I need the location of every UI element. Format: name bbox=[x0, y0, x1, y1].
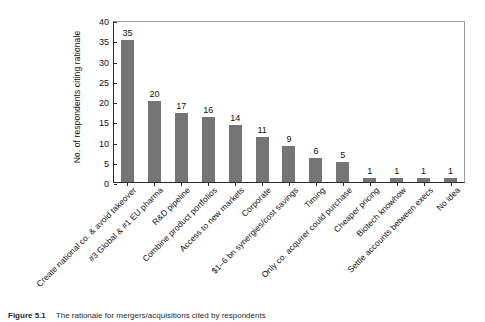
bar-value-label: 17 bbox=[176, 101, 186, 112]
bar-slot: 5 bbox=[329, 22, 356, 182]
caption-number: Figure 5.1 bbox=[8, 311, 46, 320]
y-tick-label: 0 bbox=[104, 179, 114, 189]
y-tick-label: 40 bbox=[99, 17, 114, 27]
x-tick-mark bbox=[424, 182, 425, 186]
bar-slot: 16 bbox=[195, 22, 222, 182]
bar-value-label: 1 bbox=[448, 166, 453, 177]
bar-slot: 11 bbox=[249, 22, 276, 182]
bar-slot: 9 bbox=[276, 22, 303, 182]
x-tick-mark bbox=[370, 182, 371, 186]
bar[interactable] bbox=[148, 101, 161, 182]
bar-value-label: 9 bbox=[286, 134, 291, 145]
bar-value-label: 11 bbox=[257, 125, 266, 136]
bar[interactable] bbox=[336, 162, 349, 182]
bar-slot: 14 bbox=[222, 22, 249, 182]
bar[interactable] bbox=[175, 113, 188, 182]
bar-value-label: 1 bbox=[394, 166, 399, 177]
bar-value-label: 20 bbox=[149, 89, 159, 100]
bar-slot: 1 bbox=[356, 22, 383, 182]
y-tick-label: 5 bbox=[104, 159, 114, 169]
y-axis-title: No. of respondents citing rationale bbox=[70, 16, 84, 178]
bar-value-label: 16 bbox=[203, 105, 213, 116]
x-tick-mark bbox=[154, 182, 155, 186]
bar-value-label: 1 bbox=[367, 166, 372, 177]
bar-slot: 20 bbox=[141, 22, 168, 182]
y-tick-label: 25 bbox=[99, 78, 114, 88]
y-tick-label: 10 bbox=[99, 139, 114, 149]
bar-value-label: 1 bbox=[421, 166, 426, 177]
bar-value-label: 35 bbox=[122, 28, 132, 39]
figure-caption: Figure 5.1The rationale for mergers/acqu… bbox=[8, 311, 266, 320]
bar-value-label: 6 bbox=[313, 146, 318, 157]
figure-container: No. of respondents citing rationale 0510… bbox=[0, 0, 485, 322]
bar[interactable] bbox=[202, 117, 215, 182]
bar-slot: 1 bbox=[437, 22, 464, 182]
x-tick-mark bbox=[343, 182, 344, 186]
bar-slot: 6 bbox=[302, 22, 329, 182]
bar-slot: 1 bbox=[410, 22, 437, 182]
x-tick-mark bbox=[235, 182, 236, 186]
y-tick-label: 30 bbox=[99, 58, 114, 68]
y-tick-label: 15 bbox=[99, 118, 114, 128]
x-tick-mark bbox=[316, 182, 317, 186]
y-tick-label: 35 bbox=[99, 37, 114, 47]
x-tick-mark bbox=[127, 182, 128, 186]
bar[interactable] bbox=[256, 137, 269, 182]
bar-slot: 1 bbox=[383, 22, 410, 182]
y-tick-label: 20 bbox=[99, 98, 114, 108]
plot-area: No. of respondents citing rationale 0510… bbox=[113, 21, 465, 183]
x-tick-mark bbox=[262, 182, 263, 186]
x-tick-mark bbox=[181, 182, 182, 186]
bar[interactable] bbox=[282, 146, 295, 182]
bar-slot: 35 bbox=[114, 22, 141, 182]
bar[interactable] bbox=[121, 40, 134, 182]
x-tick-mark bbox=[397, 182, 398, 186]
caption-text: The rationale for mergers/acquisitions c… bbox=[56, 311, 266, 320]
x-tick-mark bbox=[289, 182, 290, 186]
bar[interactable] bbox=[309, 158, 322, 182]
bar-value-label: 5 bbox=[340, 150, 345, 161]
x-tick-mark bbox=[208, 182, 209, 186]
x-tick-mark bbox=[451, 182, 452, 186]
bar-slot: 17 bbox=[168, 22, 195, 182]
bar-value-label: 14 bbox=[230, 113, 240, 124]
bar[interactable] bbox=[229, 125, 242, 182]
bar-series: 3520171614119651111 bbox=[114, 22, 464, 182]
